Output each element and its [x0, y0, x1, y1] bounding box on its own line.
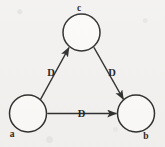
edge-label-a-b: D — [78, 108, 86, 119]
node-label-c: c — [77, 3, 81, 13]
node-c — [63, 14, 100, 51]
edge-label-a-c: D — [47, 67, 55, 78]
node-label-a: a — [10, 129, 15, 139]
node-label-b: b — [143, 131, 148, 141]
node-b — [118, 95, 155, 132]
graph-canvas: c a b D D D — [0, 0, 165, 147]
node-a — [10, 95, 47, 132]
edge-label-c-b: D — [108, 67, 116, 78]
graph-diagram: c a b D D D — [0, 0, 165, 147]
